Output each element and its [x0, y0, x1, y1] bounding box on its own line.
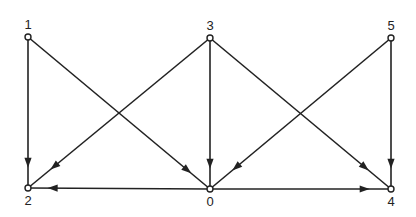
directed-graph-diagram: 135204 [0, 0, 416, 217]
node-circle-icon [25, 34, 31, 40]
edge-0-to-4 [210, 185, 391, 192]
edge-1-to-2 [24, 37, 31, 188]
node-circle-icon [388, 35, 394, 41]
edges-layer [24, 37, 394, 193]
arrowhead-icon [206, 159, 213, 169]
arrowhead-icon [24, 158, 31, 168]
node-label: 0 [206, 194, 213, 209]
node-3: 3 [206, 18, 213, 41]
arrowhead-icon [387, 159, 394, 169]
node-label: 4 [387, 194, 394, 209]
edge-3-to-0 [206, 38, 213, 189]
edge-0-to-2 [28, 185, 210, 192]
node-1: 1 [24, 17, 31, 40]
node-label: 5 [387, 18, 394, 33]
node-label: 2 [24, 193, 31, 208]
edge-5-to-4 [387, 38, 394, 189]
node-0: 0 [206, 186, 213, 209]
node-circle-icon [25, 185, 31, 191]
node-circle-icon [388, 186, 394, 192]
node-4: 4 [387, 186, 394, 209]
node-circle-icon [207, 186, 213, 192]
node-label: 3 [206, 18, 213, 33]
arrowhead-icon [48, 185, 58, 192]
node-label: 1 [24, 17, 31, 32]
arrowhead-icon [360, 185, 370, 192]
node-circle-icon [207, 35, 213, 41]
node-5: 5 [387, 18, 394, 41]
node-2: 2 [24, 185, 31, 208]
